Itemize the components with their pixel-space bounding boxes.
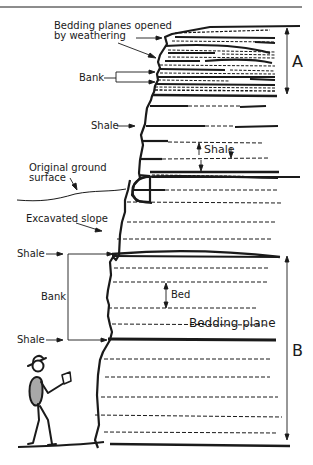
- label-bed: Bed: [171, 290, 190, 300]
- notebook-icon: [62, 372, 71, 384]
- cliff-face-main: [95, 176, 300, 448]
- label-shale-between: Shale: [204, 144, 235, 155]
- label-section-b: B: [292, 343, 303, 359]
- outcrop-diagram: [0, 0, 313, 465]
- label-section-a: A: [292, 54, 303, 70]
- label-shale-upper: Shale: [91, 121, 119, 131]
- section-b-layers: [95, 251, 290, 446]
- label-original-ground-2: surface: [29, 173, 66, 183]
- label-bedding-planes-opened-2: by weathering: [54, 31, 126, 41]
- label-bedding-plane: Bedding plane: [189, 317, 276, 329]
- original-ground-line: [17, 189, 126, 201]
- annotation-arrows: [46, 28, 289, 440]
- label-excavated-slope: Excavated slope: [26, 214, 108, 224]
- label-shale-bank-bottom: Shale: [17, 335, 45, 345]
- section-a-layers: [152, 30, 277, 96]
- geologist-figure: [28, 356, 71, 445]
- middle-layers: [117, 106, 282, 239]
- label-shale-bank-top: Shale: [17, 249, 45, 259]
- label-bank-top: Bank: [79, 73, 104, 83]
- label-bank-lower: Bank: [41, 292, 66, 302]
